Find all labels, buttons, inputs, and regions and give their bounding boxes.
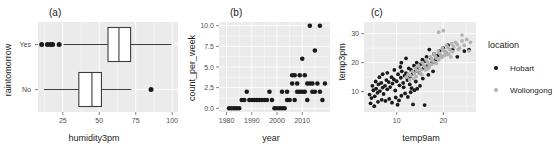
data-point	[308, 23, 313, 28]
panel-b-y-tick-label: 0.0	[204, 105, 214, 112]
data-point-hobart	[374, 87, 378, 91]
panel-a-y-axis-title: raintomorrow	[3, 43, 13, 96]
data-point-hobart	[401, 81, 405, 85]
panel-b-x-tick-label: 2000	[269, 117, 285, 124]
panel-c-y-axis-title: temp3pm	[337, 43, 347, 81]
data-point-wollongong	[445, 53, 449, 57]
data-point-hobart	[411, 103, 415, 107]
data-point-wollongong	[449, 55, 453, 59]
panel-c-y-tick-label: 20	[351, 59, 359, 66]
data-point-wollongong	[467, 49, 471, 53]
data-point-hobart	[393, 89, 397, 93]
data-point-hobart	[409, 90, 413, 94]
data-point-hobart	[455, 55, 459, 59]
data-point	[313, 48, 318, 53]
data-point-hobart	[391, 82, 395, 86]
panel-c-x-axis-title: temp9am	[402, 133, 440, 143]
data-point-hobart	[372, 104, 376, 108]
data-point-wollongong	[462, 43, 466, 47]
data-point-wollongong	[409, 74, 413, 78]
data-point	[237, 106, 242, 111]
panel-b-y-axis-title: count_per_week	[187, 34, 197, 101]
panel-a-x-tick-label: 50	[95, 117, 103, 124]
data-point	[282, 106, 287, 111]
data-point-hobart	[423, 103, 427, 107]
panel-b-x-tick-label: 1980	[219, 117, 235, 124]
panel-b-y-tick-label: 5.0	[204, 64, 214, 71]
data-point-hobart	[400, 69, 404, 73]
data-point-wollongong	[415, 69, 419, 73]
data-point-hobart	[371, 84, 375, 88]
data-point-hobart	[397, 98, 401, 102]
panel-a-x-tick-label: 25	[59, 117, 67, 124]
data-point-hobart	[395, 79, 399, 83]
panel-b-x-tick-label: 2010	[294, 117, 310, 124]
legend-label-wollongong[interactable]: Wollongong	[510, 86, 552, 95]
legend-label-hobart[interactable]: Hobart	[510, 64, 535, 73]
data-point	[323, 81, 328, 86]
figure-panel-group: (a) YesNo255075100 humidity3pm raintomor…	[0, 0, 558, 146]
data-point	[295, 81, 300, 86]
panel-c-y-tick-label: 30	[351, 30, 359, 37]
panel-c-x-tick-label: 10	[393, 117, 401, 124]
boxplot-box	[79, 73, 102, 107]
data-point-wollongong	[460, 39, 464, 43]
boxplot-outlier-point	[39, 42, 44, 47]
panel-a-boxplot: (a) YesNo255075100 humidity3pm raintomor…	[0, 0, 186, 146]
data-point	[310, 81, 315, 86]
data-point-wollongong	[465, 38, 469, 42]
data-point-hobart	[399, 94, 403, 98]
data-point-hobart	[373, 94, 377, 98]
data-point-wollongong	[434, 61, 438, 65]
panel-b-x-axis-title: year	[262, 133, 280, 143]
legend-marker-wollongong[interactable]	[494, 88, 498, 92]
data-point	[318, 89, 323, 94]
data-point	[290, 81, 295, 86]
data-point-hobart	[404, 56, 408, 60]
panel-a-y-tick-label: No	[22, 86, 31, 93]
data-point-hobart	[382, 92, 386, 96]
data-point-hobart	[387, 80, 391, 84]
data-point-hobart	[392, 68, 396, 72]
data-point-wollongong	[408, 78, 412, 82]
data-point	[295, 89, 300, 94]
data-point	[315, 81, 320, 86]
data-point	[244, 89, 249, 94]
panel-c-svg: (c) 1020102030 temp9am temp3pm location …	[336, 0, 558, 146]
data-point-hobart	[379, 81, 383, 85]
data-point-wollongong	[455, 43, 459, 47]
panel-c-plot-area: 1020102030	[351, 22, 476, 124]
data-point	[305, 81, 310, 86]
data-point-wollongong	[451, 50, 455, 54]
data-point-hobart	[370, 96, 374, 100]
data-point-hobart	[403, 92, 407, 96]
data-point	[300, 56, 305, 61]
data-point-hobart	[406, 95, 410, 99]
data-point	[313, 89, 318, 94]
data-point-hobart	[384, 99, 388, 103]
panel-a-x-tick-label: 100	[166, 117, 178, 124]
panel-a-y-tick-label: Yes	[20, 41, 32, 48]
data-point	[302, 89, 307, 94]
panel-c-x-tick-label: 20	[439, 117, 447, 124]
data-point-hobart	[421, 77, 425, 81]
data-point-hobart	[381, 72, 385, 76]
data-point-wollongong	[437, 30, 441, 34]
data-point	[270, 98, 275, 103]
data-point-hobart	[390, 101, 394, 105]
panel-b-tag: (b)	[230, 7, 242, 18]
panel-a-tag: (a)	[49, 7, 61, 18]
data-point	[292, 98, 297, 103]
legend: location Hobart Wollongong	[488, 40, 552, 95]
data-point-wollongong	[469, 40, 473, 44]
panel-a-svg: (a) YesNo255075100 humidity3pm raintomor…	[0, 0, 186, 146]
data-point-wollongong	[441, 29, 445, 33]
boxplot-outlier-point	[57, 42, 62, 47]
data-point-hobart	[387, 97, 391, 101]
data-point-hobart	[399, 65, 403, 69]
legend-marker-hobart[interactable]	[494, 66, 498, 70]
data-point-wollongong	[456, 47, 460, 51]
data-point	[242, 98, 247, 103]
data-point	[265, 98, 270, 103]
data-point-hobart	[388, 85, 392, 89]
